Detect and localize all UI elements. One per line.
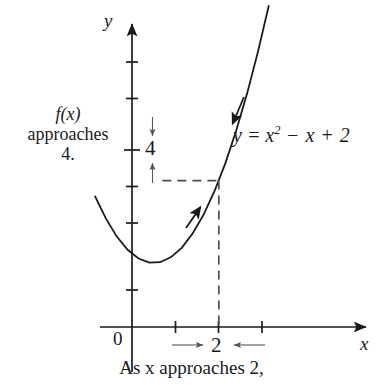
annotation-line-approaches: approaches xyxy=(12,124,124,144)
fx-approaches-annotation: f(x) approaches 4. xyxy=(12,104,124,164)
curve-equation-label: y = x2 − x + 2 xyxy=(233,124,350,146)
equation-lhs: y = x xyxy=(233,124,274,146)
y-axis-label: y xyxy=(104,10,112,31)
figure-caption: As x approaches 2, xyxy=(0,357,383,378)
limit-illustration-figure: y x 0 4 2 f(x) approaches 4. y = x2 − x … xyxy=(0,0,383,385)
y-value-label-4: 4 xyxy=(145,137,156,161)
equation-rhs: − x + 2 xyxy=(280,124,350,146)
plot-canvas xyxy=(0,0,383,385)
annotation-line-value: 4. xyxy=(12,144,124,164)
annotation-line-fx: f(x) xyxy=(12,104,124,124)
guide-lines xyxy=(162,181,218,327)
axis-lines xyxy=(100,24,366,372)
x-axis-label: x xyxy=(360,333,368,354)
origin-label: 0 xyxy=(113,328,123,349)
x-value-label-2: 2 xyxy=(211,334,222,358)
